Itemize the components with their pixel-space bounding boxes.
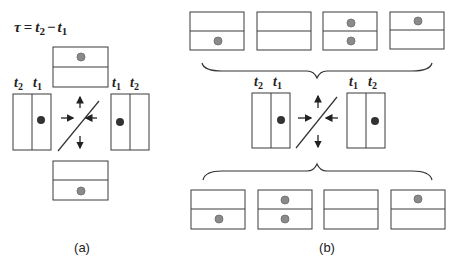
label-t2: t2 bbox=[368, 74, 377, 91]
label-t2: t2 bbox=[14, 75, 23, 92]
output-box-bottom-3 bbox=[324, 190, 378, 229]
photon-dot bbox=[37, 116, 45, 124]
label-t1: t1 bbox=[273, 74, 282, 91]
output-box-top-2 bbox=[257, 12, 311, 50]
output-box-bottom-1 bbox=[191, 190, 245, 229]
output-box-bottom-2 bbox=[258, 190, 312, 229]
photon-dot bbox=[347, 19, 355, 27]
output-box-top bbox=[53, 47, 108, 87]
input-box-right bbox=[111, 94, 149, 150]
output-box-bottom-4 bbox=[391, 190, 445, 229]
beam-splitter bbox=[58, 97, 99, 151]
output-box-bottom bbox=[53, 161, 108, 200]
panel-b: t2 t1 t1 t2 bbox=[190, 12, 445, 255]
output-box-top-4 bbox=[390, 12, 444, 49]
photon-dot bbox=[347, 37, 355, 45]
photon-dot bbox=[277, 116, 285, 124]
label-t1: t1 bbox=[112, 75, 121, 92]
label-t2: t2 bbox=[254, 74, 263, 91]
photon-dot bbox=[77, 53, 85, 61]
photon-dot bbox=[116, 118, 124, 126]
panel-label-a: (a) bbox=[74, 240, 90, 255]
photon-dot bbox=[414, 195, 422, 203]
photon-dot bbox=[281, 215, 289, 223]
photon-dot bbox=[414, 17, 422, 25]
input-box-left bbox=[13, 94, 51, 150]
beam-splitter bbox=[296, 96, 338, 148]
label-t1: t1 bbox=[349, 74, 358, 91]
svg-text:τ=t2−t1: τ=t2−t1 bbox=[14, 19, 67, 37]
photon-dot bbox=[371, 117, 379, 125]
label-t2: t2 bbox=[130, 75, 139, 92]
hom-interference-diagram: τ=t2−t1 t2 t1 t1 t2 bbox=[0, 0, 458, 270]
photon-dot bbox=[215, 215, 223, 223]
input-box-left bbox=[252, 93, 290, 148]
input-box-right bbox=[347, 93, 385, 148]
brace-top bbox=[202, 63, 432, 78]
photon-dot bbox=[281, 196, 289, 204]
photon-dot bbox=[77, 187, 85, 195]
equation-tau: τ=t2−t1 bbox=[14, 19, 67, 37]
photon-dot bbox=[214, 37, 222, 45]
output-box-top-1 bbox=[190, 12, 244, 50]
label-t1: t1 bbox=[33, 75, 42, 92]
output-box-top-3 bbox=[323, 12, 377, 50]
brace-bottom bbox=[203, 164, 432, 180]
panel-a: t2 t1 t1 t2 (a) bbox=[13, 47, 149, 255]
panel-label-b: (b) bbox=[319, 240, 335, 255]
